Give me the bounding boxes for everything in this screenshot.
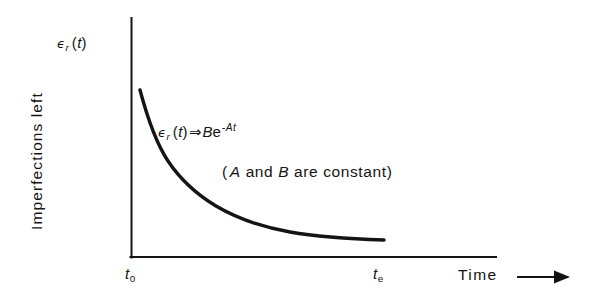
te-subscript: e <box>377 273 384 284</box>
epsilon-subscript: r <box>65 42 70 53</box>
note-close-paren: ) <box>387 163 393 180</box>
figure-container: Imperfections left ϵr(t) ϵr(t)⇒Be-At (A … <box>0 0 589 307</box>
equation-base-e: e <box>213 123 221 140</box>
x-axis-title: Time <box>458 266 497 284</box>
equation-exponent: -At <box>221 122 237 133</box>
right-arrow-icon <box>516 268 572 286</box>
equation-epsilon-subscript: r <box>166 131 171 142</box>
y-axis-title: Imperfections left <box>28 61 46 261</box>
y-var-close-paren: ) <box>81 34 87 51</box>
note-conjunction: and <box>246 163 274 180</box>
equation-coefficient-b: B <box>202 123 212 140</box>
x-tick-label-t0: t0 <box>125 265 136 284</box>
implies-arrow-icon: ⇒ <box>188 123 203 141</box>
plot-canvas <box>0 0 589 307</box>
x-tick-label-te: te <box>373 265 384 284</box>
y-axis-variable: ϵr(t) <box>57 34 87 53</box>
epsilon-symbol: ϵ <box>57 36 65 51</box>
note-const-b: B <box>278 163 289 180</box>
note-predicate: are constant <box>294 163 387 180</box>
note-open-paren: ( <box>222 163 228 180</box>
constants-note: (A and B are constant) <box>222 163 392 181</box>
note-const-a: A <box>230 163 241 180</box>
t0-subscript: 0 <box>129 273 136 284</box>
equation-annotation: ϵr(t)⇒Be-At <box>158 122 236 142</box>
equation-epsilon-symbol: ϵ <box>158 125 166 140</box>
